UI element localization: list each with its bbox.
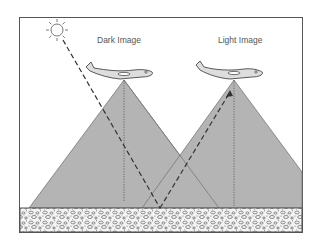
dark-image-label: Dark Image: [97, 35, 141, 45]
diagram-canvas: [0, 0, 320, 246]
light-image-label: Light Image: [218, 35, 262, 45]
ground: [20, 208, 302, 232]
